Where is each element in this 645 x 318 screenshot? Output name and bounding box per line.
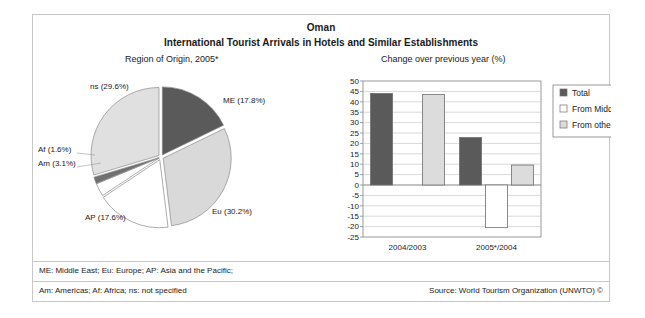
title-block: Oman International Tourist Arrivals in H… xyxy=(33,15,609,50)
figure-panel: Oman International Tourist Arrivals in H… xyxy=(32,14,610,302)
panel-titles: Region of Origin, 2005* Change over prev… xyxy=(33,54,609,70)
pie-slice-label-ns: ns (29.6%) xyxy=(90,82,129,91)
bar-chart-x-tick: 2005*/2004 xyxy=(476,243,517,252)
bar-chart-svg: 50454035302520151050-5-10-15-20-252004/2… xyxy=(329,75,611,265)
bar-chart-x-tick: 2004/2003 xyxy=(389,243,427,252)
pie-slice-label-af: Af (1.6%) xyxy=(38,145,71,154)
pie-slice-label-ap: AP (17.6%) xyxy=(85,213,126,222)
bar-chart-bar xyxy=(371,93,393,185)
pie-slice-label-me: ME (17.8%) xyxy=(223,96,265,105)
bar-chart-legend-label: Total xyxy=(572,88,590,98)
bar-chart-bar xyxy=(460,138,482,185)
bar-chart-y-tick: 30 xyxy=(350,118,359,127)
bar-chart: 50454035302520151050-5-10-15-20-252004/2… xyxy=(329,75,611,265)
bar-chart-y-tick: 0 xyxy=(355,181,360,190)
bar-chart-y-tick: -25 xyxy=(347,233,359,242)
bar-chart-y-tick: 5 xyxy=(355,170,360,179)
footer-note-line-2: Am: Americas; Af: Africa; ns: not specif… xyxy=(39,286,187,295)
bar-chart-bar xyxy=(512,165,534,185)
pie-chart-svg xyxy=(33,77,333,247)
pie-chart-title: Region of Origin, 2005* xyxy=(125,54,219,64)
footer-source: Source: World Tourism Organization (UNWT… xyxy=(429,286,603,295)
bar-chart-y-tick: 15 xyxy=(350,150,359,159)
bar-chart-y-tick: 20 xyxy=(350,139,359,148)
bar-chart-y-tick: 45 xyxy=(350,87,359,96)
footer-row-1: ME: Middle East; Eu: Europe; AP: Asia an… xyxy=(33,261,609,281)
bar-chart-bar xyxy=(486,185,508,228)
figure-title: Oman xyxy=(33,21,609,34)
bar-chart-title: Change over previous year (%) xyxy=(381,54,506,64)
bar-chart-y-tick: 40 xyxy=(350,98,359,107)
bar-chart-y-tick: 50 xyxy=(350,77,359,86)
pie-chart: ns (29.6%) ME (17.8%) Eu (30.2%) AP (17.… xyxy=(33,77,333,247)
bar-chart-y-tick: 35 xyxy=(350,108,359,117)
bar-chart-y-tick: 25 xyxy=(350,129,359,138)
figure-subtitle: International Tourist Arrivals in Hotels… xyxy=(33,36,609,50)
bar-chart-bar xyxy=(423,95,445,185)
pie-slice-label-eu: Eu (30.2%) xyxy=(212,207,252,216)
footer-row-2: Am: Americas; Af: Africa; ns: not specif… xyxy=(33,281,609,301)
pie-slice-label-am: Am (3.1%) xyxy=(38,159,76,168)
bar-chart-legend-label: From Middle East xyxy=(572,104,611,114)
bar-chart-y-tick: 10 xyxy=(350,160,359,169)
bar-chart-y-tick: -20 xyxy=(347,222,359,231)
bar-chart-y-tick: -10 xyxy=(347,202,359,211)
bar-chart-legend: TotalFrom Middle EastFrom other regions xyxy=(553,85,611,137)
footer-note-line-1: ME: Middle East; Eu: Europe; AP: Asia an… xyxy=(39,266,233,275)
bar-chart-legend-label: From other regions xyxy=(572,120,611,130)
figure-footer: ME: Middle East; Eu: Europe; AP: Asia an… xyxy=(33,261,609,301)
bar-chart-y-tick: -15 xyxy=(347,212,359,221)
bar-chart-y-tick: -5 xyxy=(352,191,360,200)
